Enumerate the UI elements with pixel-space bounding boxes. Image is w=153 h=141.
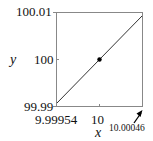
y-tick-label-mid: 100 — [34, 53, 54, 66]
y-tick-label-top: 100.01 — [16, 5, 52, 18]
x-tick-label-left: 9.99954 — [35, 113, 77, 126]
x-axis-label: x — [95, 126, 101, 140]
x-tick-label-right: 10.00046 — [109, 124, 145, 134]
data-point — [97, 57, 101, 61]
y-axis-label: y — [10, 53, 16, 67]
arrow-icon — [134, 110, 143, 123]
